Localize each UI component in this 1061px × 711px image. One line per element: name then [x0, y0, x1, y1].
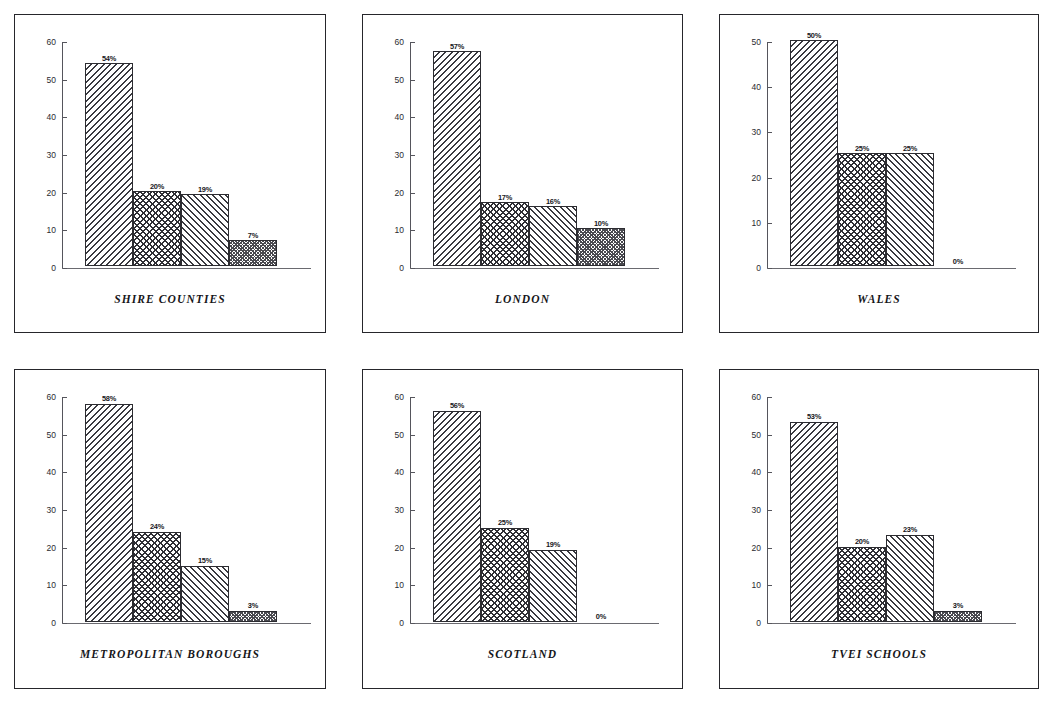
bar[interactable] [481, 528, 529, 622]
chart-title: SCOTLAND [363, 648, 682, 660]
bars-layer: 57%17%16%10% [363, 15, 682, 332]
bar-value-label: 7% [229, 231, 277, 240]
chart-panel-cell: 010203040506058%24%15%3%METROPOLITAN BOR… [0, 355, 348, 711]
chart-title: TVEI SCHOOLS [720, 648, 1038, 660]
bar-value-label: 19% [529, 540, 577, 549]
chart-panel: 0102030405050%25%25%0%WALES [719, 14, 1039, 333]
bar-value-label: 20% [838, 537, 886, 546]
bar-value-label: 58% [85, 394, 133, 403]
bar[interactable] [838, 547, 886, 622]
bar-value-label: 56% [433, 401, 481, 410]
bars-layer: 54%20%19%7% [15, 15, 325, 332]
chart-title: WALES [720, 293, 1038, 305]
bar[interactable] [433, 51, 481, 266]
bars-layer: 56%25%19%0% [363, 370, 682, 688]
plot-area: 010203040506053%20%23%3%TVEI SCHOOLS [720, 370, 1038, 688]
bars-layer: 50%25%25%0% [720, 15, 1038, 332]
bar-value-label: 23% [886, 525, 934, 534]
plot-area: 010203040506058%24%15%3%METROPOLITAN BOR… [15, 370, 325, 688]
bar-value-label: 17% [481, 193, 529, 202]
bar-value-label: 25% [886, 144, 934, 153]
bar-value-label: 54% [85, 54, 133, 63]
plot-area: 0102030405050%25%25%0%WALES [720, 15, 1038, 332]
bar[interactable] [133, 191, 181, 266]
bar-value-label: 50% [790, 31, 838, 40]
plot-area: 010203040506054%20%19%7%SHIRE COUNTIES [15, 15, 325, 332]
bar-value-label: 16% [529, 197, 577, 206]
bar-value-label: 3% [934, 601, 982, 610]
bar[interactable] [529, 550, 577, 622]
bars-layer: 53%20%23%3% [720, 370, 1038, 688]
bar-value-label: 24% [133, 522, 181, 531]
bar[interactable] [838, 153, 886, 266]
bar-value-label: 25% [838, 144, 886, 153]
chart-panel-cell: 010203040506053%20%23%3%TVEI SCHOOLS [705, 355, 1061, 711]
chart-title: LONDON [363, 293, 682, 305]
chart-panel-cell: 010203040506056%25%19%0%SCOTLAND [348, 355, 705, 711]
bar[interactable] [85, 63, 133, 266]
bar[interactable] [790, 422, 838, 622]
bar[interactable] [181, 194, 229, 266]
bar[interactable] [790, 40, 838, 266]
chart-panel-cell: 010203040506057%17%16%10%LONDON [348, 0, 705, 355]
bar-value-label: 20% [133, 182, 181, 191]
chart-panel: 010203040506056%25%19%0%SCOTLAND [362, 369, 683, 689]
bar-value-label: 53% [790, 412, 838, 421]
plot-area: 010203040506056%25%19%0%SCOTLAND [363, 370, 682, 688]
bar-value-label: 19% [181, 185, 229, 194]
chart-panel: 010203040506053%20%23%3%TVEI SCHOOLS [719, 369, 1039, 689]
chart-title: SHIRE COUNTIES [15, 293, 325, 305]
bar[interactable] [529, 206, 577, 266]
bar[interactable] [934, 611, 982, 622]
bar-value-label: 57% [433, 42, 481, 51]
bar[interactable] [886, 153, 934, 266]
chart-panel: 010203040506054%20%19%7%SHIRE COUNTIES [14, 14, 326, 333]
bar[interactable] [229, 611, 277, 622]
chart-panel: 010203040506057%17%16%10%LONDON [362, 14, 683, 333]
bar-value-label: 10% [577, 219, 625, 228]
bar-value-label: 0% [577, 612, 625, 621]
bar[interactable] [133, 532, 181, 622]
bar-value-label: 25% [481, 518, 529, 527]
bar[interactable] [181, 566, 229, 623]
chart-grid: 010203040506054%20%19%7%SHIRE COUNTIES01… [0, 0, 1061, 711]
bars-layer: 58%24%15%3% [15, 370, 325, 688]
chart-title: METROPOLITAN BOROUGHS [15, 648, 325, 660]
chart-panel-cell: 0102030405050%25%25%0%WALES [705, 0, 1061, 355]
bar[interactable] [577, 228, 625, 266]
chart-panel-cell: 010203040506054%20%19%7%SHIRE COUNTIES [0, 0, 348, 355]
bar-value-label: 3% [229, 601, 277, 610]
bar-value-label: 0% [934, 257, 982, 266]
bar[interactable] [481, 202, 529, 266]
bar[interactable] [886, 535, 934, 622]
bar-value-label: 15% [181, 556, 229, 565]
bar[interactable] [433, 411, 481, 622]
plot-area: 010203040506057%17%16%10%LONDON [363, 15, 682, 332]
bar[interactable] [85, 404, 133, 622]
bar[interactable] [229, 240, 277, 266]
chart-panel: 010203040506058%24%15%3%METROPOLITAN BOR… [14, 369, 326, 689]
